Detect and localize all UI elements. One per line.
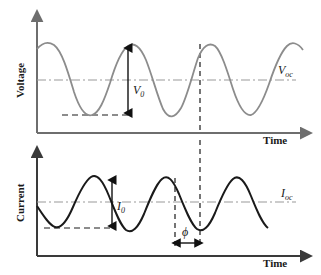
v0-subscript: 0 — [140, 90, 144, 99]
ioc-label: Ioc — [281, 186, 293, 202]
v0-label: V0 — [133, 83, 144, 99]
phase-phi-label: ϕ — [182, 225, 188, 240]
voc-label: Voc — [278, 63, 293, 79]
current-waveform — [37, 176, 268, 231]
waveform-figure: Voltage Time Voc V0 Current Time Ioc I0 … — [0, 0, 321, 275]
voltage-panel — [37, 16, 306, 133]
voltage-x-axis-label: Time — [263, 134, 287, 146]
current-y-axis-label: Current — [14, 184, 26, 222]
i0-label: I0 — [117, 199, 125, 215]
ioc-subscript: oc — [285, 193, 293, 202]
voltage-y-axis-label: Voltage — [14, 63, 26, 98]
voc-subscript: oc — [285, 70, 293, 79]
current-panel — [37, 140, 306, 256]
current-x-axis-label: Time — [263, 257, 287, 269]
i0-subscript: 0 — [121, 206, 125, 215]
